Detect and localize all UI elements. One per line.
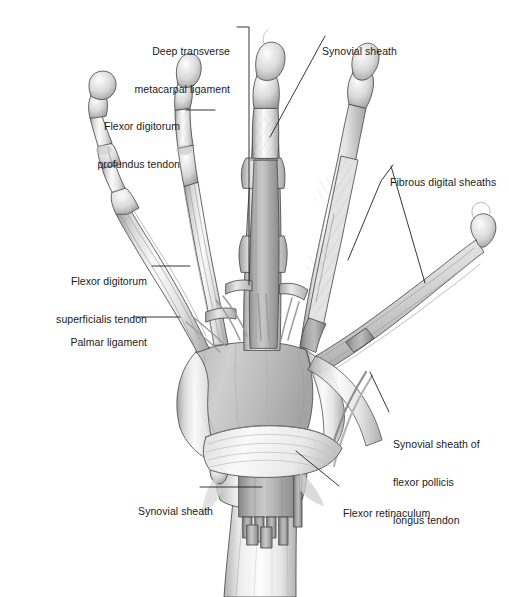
label-line: Synovial sheath	[112, 505, 213, 518]
label-fibrous-digital-sheaths: Fibrous digital sheaths	[390, 151, 509, 214]
label-palmar-ligament: Palmar ligament	[46, 311, 147, 374]
label-line: Synovial sheath of	[393, 438, 509, 451]
middle-finger	[239, 30, 287, 350]
label-line: Deep transverse	[100, 45, 230, 58]
label-line: Flexor digitorum	[62, 120, 180, 133]
label-line: Fibrous digital sheaths	[390, 176, 509, 189]
label-synovial-sheath-bottom: Synovial sheath	[112, 480, 213, 543]
label-line: metacarpal ligament	[100, 83, 230, 96]
label-line: profundus tendon	[62, 158, 180, 171]
label-flexor-digitorum-profundus-tendon: Flexor digitorum profundus tendon	[62, 95, 180, 196]
flexor-retinaculum	[203, 426, 342, 478]
label-line: Synovial sheath	[322, 45, 432, 58]
label-line: Flexor retinaculum	[343, 507, 455, 520]
ring-finger	[300, 43, 379, 352]
label-flexor-retinaculum: Flexor retinaculum	[343, 482, 455, 545]
label-line: Flexor digitorum	[22, 275, 147, 288]
anatomical-figure: Deep transverse metacarpal ligament Syno…	[0, 0, 509, 597]
label-line: Palmar ligament	[46, 336, 147, 349]
label-synovial-sheath-top: Synovial sheath	[322, 20, 432, 83]
